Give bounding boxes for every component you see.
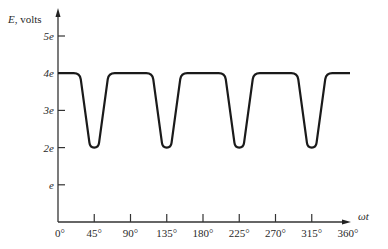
x-tick-label: 135°	[156, 227, 177, 239]
x-tick-label: 0°	[55, 227, 65, 239]
y-axis-arrow-icon	[56, 8, 61, 17]
x-axis-label: ωt	[358, 210, 370, 222]
x-tick-label: 270°	[265, 227, 286, 239]
axes	[56, 8, 352, 225]
x-tick-label: 225°	[229, 227, 250, 239]
y-tick-label: 4e	[44, 67, 55, 79]
chart: e2e3e4e5e 0°45°90°135°180°225°270°315°36…	[0, 0, 388, 249]
y-tick-label: 5e	[44, 30, 55, 42]
x-tick-label: 180°	[193, 227, 214, 239]
x-tick-label: 315°	[301, 227, 322, 239]
y-axis-label: E, volts	[7, 13, 42, 25]
y-tick-label: 2e	[44, 142, 55, 154]
x-tick-label: 90°	[123, 227, 138, 239]
y-tick-label: 3e	[43, 104, 55, 116]
x-axis-arrow-icon	[342, 220, 351, 225]
y-tick-label: e	[49, 179, 54, 191]
x-tick-label: 360°	[338, 227, 359, 239]
x-ticks: 0°45°90°135°180°225°270°315°360°	[55, 214, 358, 239]
waveform-line	[58, 73, 350, 147]
x-tick-label: 45°	[87, 227, 102, 239]
y-ticks: e2e3e4e5e	[43, 30, 65, 191]
